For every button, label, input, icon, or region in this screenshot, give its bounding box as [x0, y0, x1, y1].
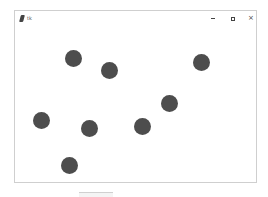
- close-icon: ×: [248, 15, 254, 22]
- maximize-icon: [231, 17, 235, 21]
- feather-icon: [19, 15, 25, 22]
- minimize-button[interactable]: [207, 13, 219, 24]
- maximize-button[interactable]: [227, 13, 239, 24]
- drawing-canvas[interactable]: [15, 27, 256, 182]
- circle-dot[interactable]: [65, 50, 82, 67]
- circle-dot[interactable]: [61, 157, 78, 174]
- circle-dot[interactable]: [193, 54, 210, 71]
- close-button[interactable]: ×: [245, 13, 257, 24]
- window-title: tk: [27, 14, 32, 22]
- circle-dot[interactable]: [134, 118, 151, 135]
- app-window: tk ×: [14, 10, 257, 183]
- circle-dot[interactable]: [161, 95, 178, 112]
- circle-dot[interactable]: [101, 62, 118, 79]
- title-bar[interactable]: tk ×: [15, 11, 256, 27]
- circle-dot[interactable]: [81, 120, 98, 137]
- circle-dot[interactable]: [33, 112, 50, 129]
- minimize-icon: [211, 18, 215, 19]
- taskbar-button[interactable]: [79, 192, 113, 196]
